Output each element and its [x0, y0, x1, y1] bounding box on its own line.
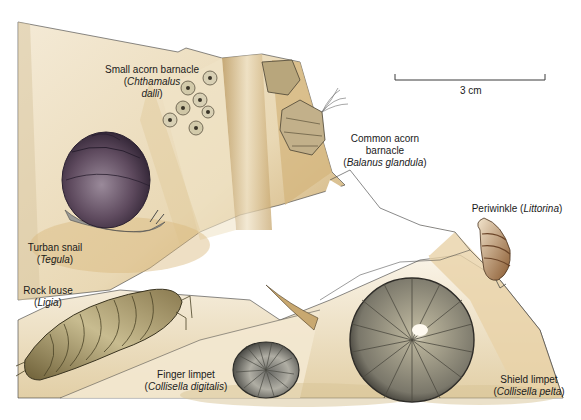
scientific-name: Littorina [523, 203, 559, 214]
label-periwinkle: Periwinkle (Littorina) [462, 203, 572, 215]
common-name: Small acorn barnacle [82, 64, 222, 76]
scientific-name: Collisella pelta [497, 386, 561, 397]
scale-bar-label: 3 cm [460, 85, 482, 96]
scientific-name-2: dalli [141, 88, 159, 99]
scale-bar [395, 74, 545, 80]
scientific-name: Chthamalus [127, 76, 180, 87]
label-small-acorn-barnacle: Small acorn barnacle (Chthamalus dalli) [82, 64, 222, 100]
label-finger-limpet: Finger limpet (Collisella digitalis) [136, 369, 236, 393]
common-name: Shield limpet [484, 374, 574, 386]
common-name: Common acorn [330, 133, 440, 145]
label-common-acorn-barnacle: Common acorn barnacle (Balanus glandula) [330, 133, 440, 169]
common-name-2: barnacle [330, 145, 440, 157]
scientific-name: Ligia [37, 297, 58, 308]
common-name: Periwinkle ( [472, 203, 524, 214]
scientific-name: Tegula [40, 254, 70, 265]
label-rock-louse: Rock louse (Ligia) [18, 285, 78, 309]
scientific-name: Balanus glandula [347, 157, 424, 168]
common-name: Rock louse [18, 285, 78, 297]
shield-limpet [350, 278, 474, 402]
scientific-name: Collisella digitalis [148, 381, 224, 392]
finger-limpet [233, 342, 299, 398]
label-shield-limpet: Shield limpet (Collisella pelta) [484, 374, 574, 398]
common-name: Finger limpet [136, 369, 236, 381]
common-name: Turban snail [20, 242, 90, 254]
label-turban-snail: Turban snail (Tegula) [20, 242, 90, 266]
